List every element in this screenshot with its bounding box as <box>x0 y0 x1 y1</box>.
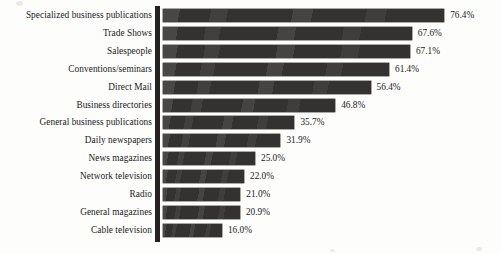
bar-row: Direct Mail56.4% <box>0 81 501 99</box>
bar <box>163 99 335 112</box>
bar <box>163 27 412 40</box>
bar <box>163 134 280 147</box>
bar-value-label: 22.0% <box>250 170 274 183</box>
bar-value-label: 56.4% <box>377 81 401 94</box>
horizontal-bar-chart: Specialized business publications76.4%Tr… <box>0 0 501 254</box>
bar-value-label: 61.4% <box>395 63 419 76</box>
bar-row: News magazines25.0% <box>0 152 501 170</box>
category-label: Trade Shows <box>103 27 152 40</box>
category-label: Radio <box>130 188 152 201</box>
bar-rows: Specialized business publications76.4%Tr… <box>0 9 501 242</box>
bar-value-label: 76.4% <box>450 9 474 22</box>
bar-row: Radio21.0% <box>0 188 501 206</box>
category-label: Salespeople <box>107 45 152 58</box>
bar <box>163 9 444 22</box>
category-label: News magazines <box>89 152 152 165</box>
bar-row: Salespeople67.1% <box>0 45 501 63</box>
category-label: Conventions/seminars <box>68 63 152 76</box>
bar-row: Trade Shows67.6% <box>0 27 501 45</box>
category-label: Daily newspapers <box>85 134 152 147</box>
bar <box>163 116 294 129</box>
bar <box>163 45 410 58</box>
category-label: Direct Mail <box>108 81 152 94</box>
bar <box>163 188 240 201</box>
bar-value-label: 31.9% <box>286 134 310 147</box>
category-label: General business publications <box>40 116 152 129</box>
bar <box>163 152 255 165</box>
bar-value-label: 67.1% <box>416 45 440 58</box>
bar-row: Business directories46.8% <box>0 99 501 117</box>
bar <box>163 170 244 183</box>
bar-row: General magazines20.9% <box>0 206 501 224</box>
bar <box>163 224 222 237</box>
category-label: Specialized business publications <box>26 9 152 22</box>
bar <box>163 81 371 94</box>
scan-artifact <box>330 249 335 252</box>
bar <box>163 63 389 76</box>
scan-artifact <box>16 1 23 6</box>
bar-value-label: 35.7% <box>300 116 324 129</box>
bar <box>163 206 240 219</box>
bar-row: Daily newspapers31.9% <box>0 134 501 152</box>
bar-value-label: 21.0% <box>246 188 270 201</box>
bar-row: General business publications35.7% <box>0 116 501 134</box>
bar-value-label: 20.9% <box>246 206 270 219</box>
category-label: General magazines <box>80 206 152 219</box>
bar-row: Specialized business publications76.4% <box>0 9 501 27</box>
bar-row: Network television22.0% <box>0 170 501 188</box>
bar-value-label: 67.6% <box>418 27 442 40</box>
scan-artifact <box>476 247 482 251</box>
bar-row: Conventions/seminars61.4% <box>0 63 501 81</box>
bar-row: Cable television16.0% <box>0 224 501 242</box>
bar-value-label: 16.0% <box>228 224 252 237</box>
category-label: Network television <box>80 170 152 183</box>
bar-value-label: 25.0% <box>261 152 285 165</box>
category-label: Cable television <box>91 224 152 237</box>
bar-value-label: 46.8% <box>341 99 365 112</box>
category-label: Business directories <box>76 99 152 112</box>
